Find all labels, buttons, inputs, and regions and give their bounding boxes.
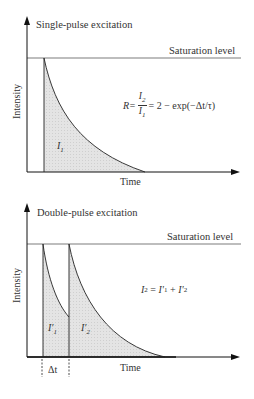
decay-area-I2-prime (69, 244, 165, 357)
diagram-canvas (0, 0, 254, 399)
area-label-I2-prime: I′2 (81, 322, 90, 336)
panel-title-single: Single-pulse excitation (36, 19, 133, 30)
x-axis-label-double: Time (120, 362, 141, 373)
x-axis-arrow-icon (231, 354, 240, 360)
double-pulse-plot (24, 203, 241, 377)
y-axis-arrow-icon (24, 203, 30, 212)
x-axis-label-single: Time (120, 176, 141, 187)
panel-title-double: Double-pulse excitation (37, 207, 138, 218)
y-axis-arrow-icon (24, 16, 30, 25)
y-axis-label-single: Intensity (11, 84, 22, 119)
ratio-formula: R= I2 I1 = 2 − exp(−Δt/τ) (123, 91, 215, 120)
sum-formula: I2 = I′1 + I′2 (141, 284, 187, 295)
area-label-I1: I1 (57, 140, 64, 154)
saturation-label-double: Saturation level (167, 231, 233, 242)
y-axis-label-double: Intensity (11, 268, 22, 303)
area-label-I1-prime: I′1 (48, 322, 57, 336)
x-axis-arrow-icon (231, 169, 240, 175)
decay-area-I1-prime (43, 244, 69, 357)
saturation-label-single: Saturation level (169, 45, 235, 56)
delay-label: Δt (48, 364, 57, 375)
